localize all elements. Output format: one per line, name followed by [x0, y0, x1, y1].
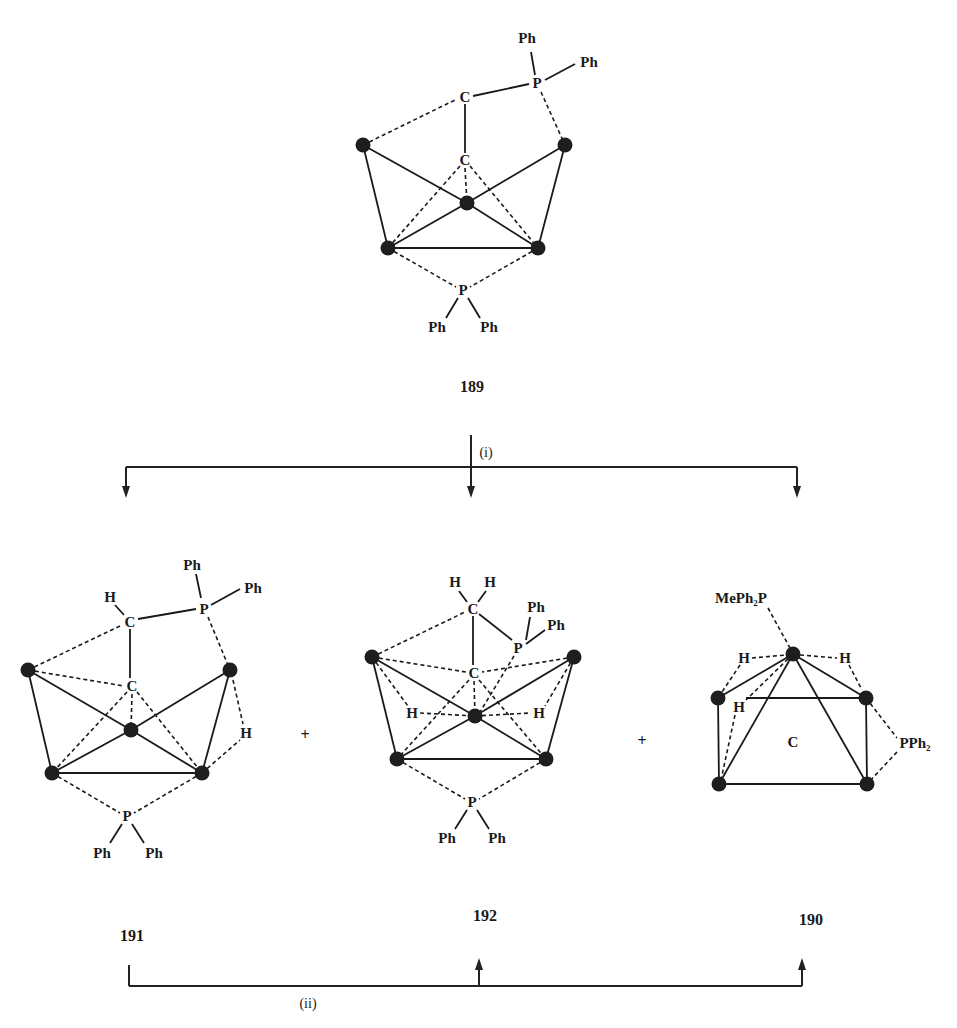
- atom-label: P: [199, 601, 208, 617]
- dashed-bond: [800, 655, 837, 658]
- solid-bond: [475, 716, 546, 759]
- arrowhead-icon: [467, 486, 475, 498]
- dashed-bond: [52, 773, 120, 813]
- compound-number-label: 190: [799, 911, 823, 928]
- atom-label: P: [513, 640, 522, 656]
- atom-label: C: [468, 601, 479, 617]
- solid-bond: [526, 630, 545, 644]
- dashed-bond: [866, 698, 897, 738]
- atom-label: H: [240, 725, 252, 741]
- solid-bond: [363, 145, 467, 203]
- solid-bond: [479, 614, 512, 640]
- dashed-bond: [470, 248, 538, 287]
- metal-atom-icon: [365, 650, 380, 665]
- atom-label: H: [839, 650, 851, 666]
- reaction-condition-label: (i): [479, 445, 493, 461]
- solid-bond: [28, 670, 52, 773]
- atom-label: P: [122, 808, 131, 824]
- solid-bond: [132, 824, 144, 843]
- dashed-bond: [420, 713, 475, 716]
- atom-label: H: [533, 705, 545, 721]
- solid-bond: [138, 609, 196, 619]
- metal-atom-icon: [468, 709, 483, 724]
- atom-label: C: [127, 678, 138, 694]
- metal-atom-icon: [460, 196, 475, 211]
- solid-bond: [52, 730, 131, 773]
- metal-atom-icon: [712, 777, 727, 792]
- atom-label: C: [125, 614, 136, 630]
- labels-189: PhPhPCCPPhPh189: [428, 30, 598, 395]
- metal-atom-icon: [786, 647, 801, 662]
- atom-label: Ph: [438, 830, 456, 846]
- solid-bond: [388, 203, 467, 248]
- compound-number-label: 192: [473, 907, 497, 924]
- arrowhead-icon: [798, 958, 806, 970]
- dashed-bond: [397, 759, 465, 799]
- compound-191: [28, 574, 243, 843]
- metal-atom-icon: [860, 777, 875, 792]
- dashed-bond: [363, 99, 457, 145]
- metal-atom-icon: [539, 752, 554, 767]
- atom-label: C: [469, 665, 480, 681]
- dashed-bond: [372, 612, 465, 657]
- solid-bond: [211, 589, 240, 605]
- dashed-bond: [545, 657, 574, 706]
- reaction-condition-label: (ii): [299, 996, 316, 1012]
- atom-label: Ph: [488, 830, 506, 846]
- bond-layer: [28, 52, 897, 843]
- solid-bond: [526, 617, 530, 640]
- dashed-bond: [52, 692, 127, 773]
- atom-label: H: [738, 650, 750, 666]
- atom-label: P: [467, 794, 476, 810]
- solid-bond: [455, 810, 467, 829]
- label-layer: PhPhPCCPPhPh189PhPhPHCCHPPhPh191HHCPhPhP…: [93, 30, 931, 944]
- metal-atom-layer: [21, 138, 875, 792]
- atom-label: Ph: [580, 54, 598, 70]
- dashed-bond: [233, 680, 243, 724]
- atom-label: C: [788, 734, 799, 750]
- solid-bond: [473, 84, 529, 96]
- solid-bond: [719, 654, 793, 784]
- solid-bond: [793, 654, 866, 698]
- metal-atom-icon: [859, 691, 874, 706]
- atom-label: Ph: [518, 30, 536, 46]
- metal-atom-icon: [124, 723, 139, 738]
- metal-atom-icon: [567, 650, 582, 665]
- dashed-bond: [28, 625, 122, 670]
- solid-bond: [397, 716, 475, 759]
- metal-atom-icon: [531, 241, 546, 256]
- solid-bond: [866, 698, 867, 784]
- solid-bond: [363, 145, 388, 248]
- atom-label: Ph: [145, 845, 163, 861]
- solid-bond: [467, 203, 538, 248]
- dashed-bond: [541, 92, 565, 145]
- dashed-bond: [470, 166, 538, 248]
- labels-191: PhPhPHCCHPPhPh191: [93, 557, 262, 944]
- metal-atom-icon: [558, 138, 573, 153]
- dashed-bond: [479, 759, 546, 799]
- dashed-bond: [849, 665, 862, 690]
- solid-bond: [478, 591, 486, 602]
- atom-label: H: [733, 699, 745, 715]
- arrowhead-icon: [475, 958, 483, 970]
- metal-atom-icon: [21, 663, 36, 678]
- solid-bond: [467, 145, 565, 203]
- dashed-bond: [768, 608, 790, 648]
- atom-label: Ph: [547, 617, 565, 633]
- atom-label: C: [460, 152, 471, 168]
- metal-atom-icon: [223, 663, 238, 678]
- plus-sign: +: [300, 726, 309, 743]
- dashed-bond: [722, 665, 740, 692]
- solid-bond: [545, 64, 575, 80]
- atom-label: P: [458, 282, 467, 298]
- arrowhead-icon: [122, 486, 130, 498]
- arrow-layer: (i)(ii): [122, 435, 806, 1012]
- plus-sign: +: [637, 732, 646, 749]
- solid-bond: [793, 654, 867, 784]
- metal-atom-icon: [381, 241, 396, 256]
- atom-label: H: [406, 705, 418, 721]
- solid-bond: [372, 657, 397, 759]
- dashed-bond: [752, 655, 786, 658]
- dashed-bond: [202, 740, 240, 773]
- atom-label: Ph: [428, 319, 446, 335]
